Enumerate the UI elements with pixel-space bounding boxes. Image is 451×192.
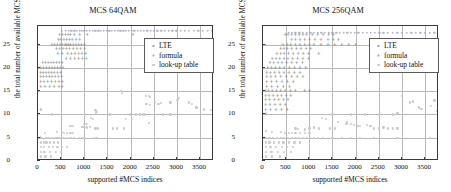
- data-point: [116, 29, 118, 31]
- data-point: [196, 107, 198, 109]
- chart-panel-256qam: MCS 256QAM the total number of available…: [225, 0, 451, 192]
- data-point: +: [50, 75, 54, 80]
- data-point: +: [77, 33, 81, 38]
- data-point: [373, 127, 375, 129]
- y-tick-label: 20: [0, 63, 10, 71]
- data-point: [294, 127, 296, 129]
- data-point: +: [44, 75, 48, 80]
- x-tick-mark: [378, 157, 379, 160]
- data-point: [140, 29, 142, 31]
- data-point: +: [313, 37, 317, 42]
- data-point: [321, 117, 323, 119]
- data-point: +: [66, 33, 70, 38]
- x-axis-label: supported #MCS indices: [37, 175, 213, 184]
- data-point: [282, 141, 284, 143]
- data-point: +: [73, 51, 77, 56]
- data-point: [89, 29, 91, 31]
- chart-panel-64qam: MCS 64QAM the total number of available …: [0, 0, 226, 192]
- data-point: [320, 32, 322, 34]
- legend-item-look-up-table[interactable]: look-up table: [148, 60, 209, 70]
- data-point: +: [64, 47, 68, 52]
- data-point: [70, 29, 72, 31]
- data-point: [288, 141, 290, 143]
- data-point: +: [72, 56, 76, 61]
- data-point: [100, 29, 102, 31]
- data-point: +: [296, 56, 300, 61]
- data-point: +: [290, 33, 294, 38]
- data-point: +: [274, 79, 278, 84]
- data-point: +: [49, 79, 53, 84]
- y-tick-mark: [262, 137, 265, 138]
- y-tick-mark: [262, 113, 265, 114]
- data-point: [290, 151, 292, 153]
- data-point: +: [287, 84, 291, 89]
- data-point: [433, 99, 435, 101]
- data-point: +: [41, 70, 45, 75]
- data-point: +: [67, 37, 71, 42]
- data-point: [391, 32, 393, 34]
- legend-marker-icon: [373, 45, 384, 47]
- data-point: [160, 102, 162, 104]
- y-tick-mark: [262, 44, 265, 45]
- data-point: +: [77, 56, 81, 61]
- gridline-vertical: [286, 26, 287, 159]
- data-point: +: [319, 37, 323, 42]
- legend-item-formula[interactable]: +formula: [373, 51, 434, 61]
- data-point: [72, 132, 74, 134]
- data-point: +: [267, 93, 271, 98]
- x-tick-mark: [199, 157, 200, 160]
- data-point: [148, 95, 150, 97]
- data-point: +: [275, 51, 279, 56]
- data-point: +: [43, 61, 47, 66]
- legend-item-lte[interactable]: LTE: [373, 41, 434, 51]
- legend-item-look-up-table[interactable]: look-up table: [373, 60, 434, 70]
- data-point: [265, 141, 267, 143]
- data-point: [277, 151, 279, 153]
- data-point: [339, 32, 341, 34]
- data-point: +: [54, 47, 58, 52]
- data-point: +: [291, 79, 295, 84]
- data-point: +: [290, 47, 294, 52]
- data-point: [292, 146, 294, 148]
- data-point: [66, 132, 68, 134]
- data-point: [65, 29, 67, 31]
- data-point: [97, 29, 99, 31]
- data-point: +: [56, 51, 60, 56]
- data-point: [279, 155, 281, 157]
- data-point: +: [56, 75, 60, 80]
- data-point: +: [47, 84, 51, 89]
- data-point: +: [294, 47, 298, 52]
- data-point: [410, 32, 412, 34]
- data-point: +: [74, 37, 78, 42]
- data-point: +: [300, 61, 304, 66]
- data-point: [269, 146, 271, 148]
- legend-item-lte[interactable]: LTE: [148, 41, 209, 51]
- data-point: [63, 132, 65, 134]
- data-point: [86, 29, 88, 31]
- data-point: [280, 146, 282, 148]
- legend-item-formula[interactable]: +formula: [148, 51, 209, 61]
- gridline-vertical: [107, 26, 108, 159]
- x-tick-mark: [308, 157, 309, 160]
- chart-title: MCS 256QAM: [225, 6, 451, 15]
- gridline-vertical: [332, 26, 333, 159]
- data-point: [114, 29, 116, 31]
- data-point: [275, 146, 277, 148]
- data-point: +: [47, 75, 51, 80]
- data-point: [103, 29, 105, 31]
- data-point: +: [39, 75, 43, 80]
- data-point: [97, 127, 99, 129]
- data-point: [429, 32, 431, 34]
- data-point: [304, 132, 306, 134]
- data-point: +: [290, 56, 294, 61]
- data-point: [270, 151, 272, 153]
- x-tick-label: 3500: [184, 163, 214, 171]
- data-point: [271, 155, 273, 157]
- data-point: [278, 141, 280, 143]
- data-point: [433, 32, 435, 34]
- data-point: +: [316, 51, 320, 56]
- data-point: +: [290, 61, 294, 66]
- data-point: [157, 103, 159, 105]
- data-point: +: [264, 98, 268, 103]
- data-point: +: [78, 47, 82, 52]
